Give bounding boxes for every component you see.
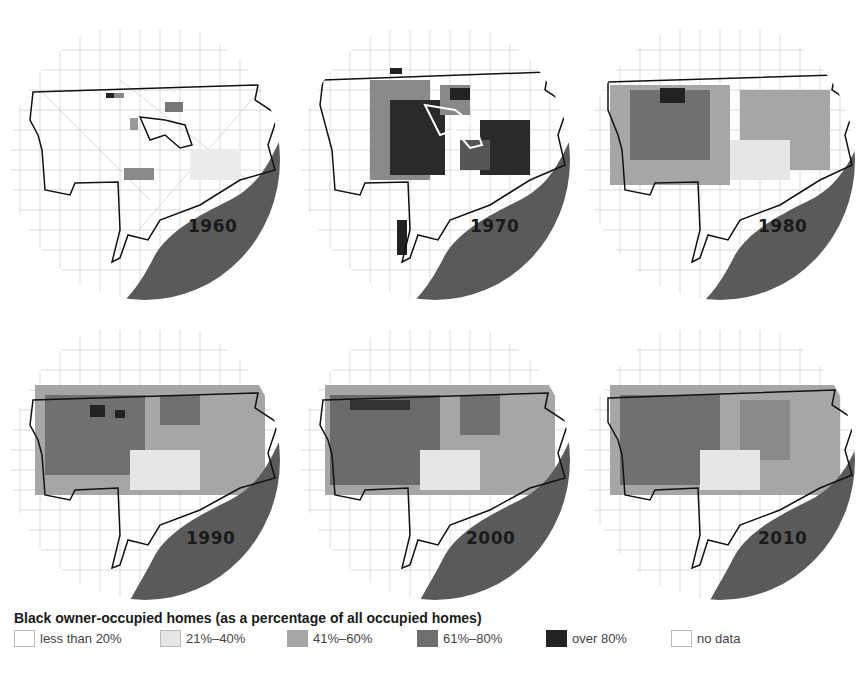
legend-item: over 80% bbox=[546, 630, 671, 647]
legend-swatch bbox=[14, 630, 35, 647]
legend-label: 41%–60% bbox=[313, 631, 372, 646]
year-label: 1960 bbox=[188, 216, 237, 236]
legend-label: 61%–80% bbox=[443, 631, 502, 646]
year-label: 2000 bbox=[466, 528, 515, 548]
map-graphic bbox=[0, 0, 290, 300]
legend-label: less than 20% bbox=[40, 631, 122, 646]
map-graphic bbox=[580, 0, 867, 300]
map-graphic bbox=[0, 310, 290, 610]
legend-item: 21%–40% bbox=[160, 630, 287, 647]
map-graphic bbox=[290, 0, 580, 300]
map-1990: 1990 bbox=[0, 310, 290, 610]
year-label: 1970 bbox=[470, 216, 519, 236]
year-label: 1990 bbox=[186, 528, 235, 548]
legend-title: Black owner-occupied homes (as a percent… bbox=[14, 610, 864, 626]
legend-swatch bbox=[546, 630, 567, 647]
map-graphic bbox=[290, 310, 580, 610]
map-2000: 2000 bbox=[290, 310, 580, 610]
legend-item: 61%–80% bbox=[417, 630, 546, 647]
legend: Black owner-occupied homes (as a percent… bbox=[14, 610, 864, 647]
map-1960: 1960 bbox=[0, 0, 290, 300]
map-1970: 1970 bbox=[290, 0, 580, 300]
legend-label: 21%–40% bbox=[186, 631, 245, 646]
legend-item: no data bbox=[671, 630, 740, 647]
legend-swatch bbox=[287, 630, 308, 647]
legend-swatch bbox=[160, 630, 181, 647]
legend-item: 41%–60% bbox=[287, 630, 417, 647]
legend-swatch bbox=[671, 630, 692, 647]
map-graphic bbox=[580, 310, 867, 610]
legend-label: over 80% bbox=[572, 631, 627, 646]
year-label: 1980 bbox=[758, 216, 807, 236]
map-1980: 1980 bbox=[580, 0, 867, 300]
map-2010: 2010 bbox=[580, 310, 867, 610]
year-label: 2010 bbox=[758, 528, 807, 548]
legend-item: less than 20% bbox=[14, 630, 160, 647]
legend-swatch bbox=[417, 630, 438, 647]
legend-label: no data bbox=[697, 631, 740, 646]
legend-row: less than 20% 21%–40% 41%–60% 61%–80% ov… bbox=[14, 630, 864, 647]
